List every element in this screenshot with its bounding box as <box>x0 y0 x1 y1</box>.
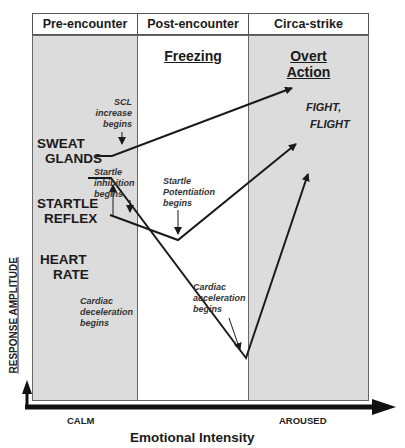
x-axis-min-label: CALM <box>67 415 94 426</box>
cardiac-acceleration-arrow-icon <box>229 318 240 350</box>
x-axis-arrowhead-icon <box>372 399 396 415</box>
label-sweat-glands: SWEAT GLANDS <box>37 136 102 166</box>
note-line: inhibition <box>94 178 135 189</box>
note-line: begins <box>80 318 133 329</box>
y-axis-label: RESPONSE AMPLITUDE <box>8 254 19 374</box>
label-line: STARTLE <box>37 196 98 211</box>
note-line: begins <box>77 119 132 130</box>
note-line: Potentiation <box>163 187 215 198</box>
note-line: begins <box>163 198 215 209</box>
note-cardiac-deceleration: Cardiac deceleration begins <box>80 296 133 329</box>
note-line: Cardiac <box>193 282 246 293</box>
outcome-line: FIGHT, <box>306 99 350 116</box>
note-line: Startle <box>163 176 215 187</box>
note-line: deceleration <box>80 307 133 318</box>
label-startle-reflex: STARTLE REFLEX <box>37 196 98 226</box>
label-line: RATE <box>40 267 89 282</box>
note-line: acceleration <box>193 293 246 304</box>
note-line: begins <box>94 189 135 200</box>
note-line: SCL increase <box>77 97 132 119</box>
note-startle-inhibition: Startle inhibition begins <box>94 167 135 200</box>
note-cardiac-acceleration: Cardiac acceleration begins <box>193 282 246 315</box>
outcome-fight-flight: FIGHT, FLIGHT <box>306 99 350 133</box>
note-startle-potentiation: Startle Potentiation begins <box>163 176 215 209</box>
x-axis-max-label: AROUSED <box>279 415 327 426</box>
outcome-line: FLIGHT <box>306 116 350 133</box>
label-line: GLANDS <box>37 151 102 166</box>
note-line: Cardiac <box>80 296 133 307</box>
note-line: begins <box>193 304 246 315</box>
x-axis-title: Emotional Intensity <box>130 430 255 445</box>
label-line: SWEAT <box>37 136 102 151</box>
label-line: HEART <box>40 252 89 267</box>
note-line: Startle <box>94 167 135 178</box>
note-scl-increase: SCL increase begins <box>77 97 132 130</box>
label-heart-rate: HEART RATE <box>40 252 89 282</box>
label-line: REFLEX <box>37 211 98 226</box>
y-axis-arrowhead-icon <box>22 380 32 394</box>
